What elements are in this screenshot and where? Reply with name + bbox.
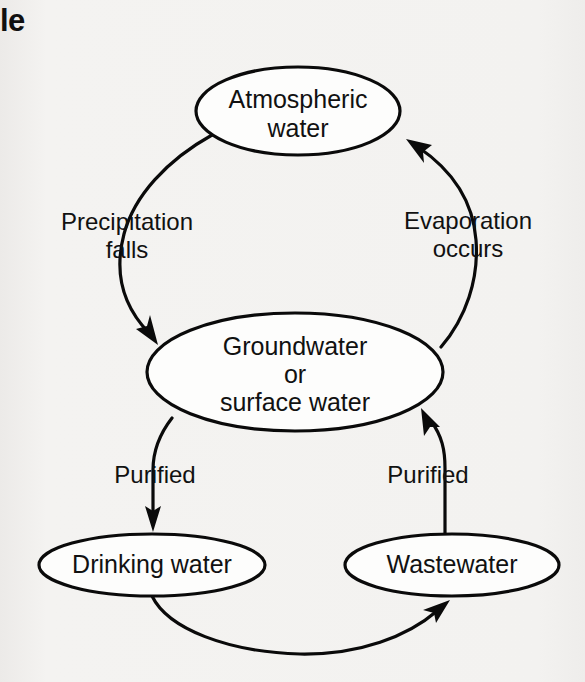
- node-wastewater[interactable]: Wastewater: [345, 534, 559, 596]
- edge-label-precipitation-falls: Precipitation falls: [61, 208, 193, 263]
- diagram-canvas: Atmospheric water Groundwater or surface…: [0, 0, 585, 682]
- edge-label-purified-drinking-text: Purified: [114, 461, 195, 488]
- edge-label-evaporation-line1: Evaporation: [404, 207, 532, 234]
- node-groundwater-surface-water[interactable]: Groundwater or surface water: [147, 313, 443, 431]
- node-atmospheric-water-label-line2: water: [266, 114, 328, 142]
- edge-label-precipitation-line2: falls: [106, 236, 149, 263]
- edge-drinking-to-wastewater-path: [152, 596, 437, 654]
- node-groundwater-label-line1: Groundwater: [223, 332, 368, 360]
- node-groundwater-label-line3: surface water: [220, 388, 370, 416]
- water-cycle-diagram: le Atmosph: [0, 0, 585, 682]
- edge-drinking-to-wastewater: [152, 596, 450, 654]
- edge-label-evaporation-line2: occurs: [433, 235, 504, 262]
- edge-label-purified-wastewater-text: Purified: [387, 461, 468, 488]
- node-drinking-water[interactable]: Drinking water: [39, 534, 265, 596]
- node-atmospheric-water[interactable]: Atmospheric water: [196, 67, 400, 155]
- node-wastewater-label: Wastewater: [386, 550, 517, 578]
- edge-label-purified-drinking: Purified: [114, 461, 195, 488]
- edge-label-evaporation-occurs: Evaporation occurs: [404, 207, 532, 262]
- edge-label-purified-wastewater: Purified: [387, 461, 468, 488]
- edge-evaporation-arrowhead: [406, 139, 432, 163]
- node-atmospheric-water-label-line1: Atmospheric: [229, 85, 368, 113]
- edge-label-precipitation-line1: Precipitation: [61, 208, 193, 235]
- node-drinking-water-label: Drinking water: [72, 550, 232, 578]
- node-groundwater-label-line2: or: [284, 360, 306, 388]
